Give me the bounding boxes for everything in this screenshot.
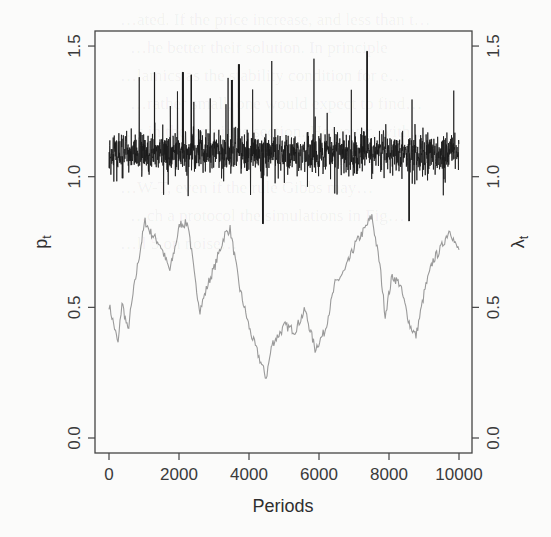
y-tick-label-left: 1.5 xyxy=(65,34,84,58)
x-tick-label: 4000 xyxy=(230,465,268,484)
y-tick-label-left: 0.5 xyxy=(65,296,84,320)
lambda-series-line xyxy=(109,214,459,378)
y-tick-label-right: 1.5 xyxy=(484,34,503,58)
svg-text:λt: λt xyxy=(508,235,531,248)
x-tick-label: 6000 xyxy=(300,465,338,484)
plot-frame xyxy=(95,31,472,453)
y-tick-label-left: 1.0 xyxy=(65,165,84,189)
y-axis-right: 0.00.51.01.5 xyxy=(472,34,503,450)
y-axis-left: 0.00.51.01.5 xyxy=(65,34,95,450)
price-series-line xyxy=(109,51,459,223)
x-tick-label: 8000 xyxy=(370,465,408,484)
y-tick-label-left: 0.0 xyxy=(65,426,84,450)
svg-text:pt: pt xyxy=(31,235,54,249)
x-axis: 0200040006000800010000 xyxy=(104,453,482,484)
y-axis-title-left: pt xyxy=(31,235,54,249)
x-tick-label: 0 xyxy=(104,465,113,484)
x-tick-label: 2000 xyxy=(160,465,198,484)
y-tick-label-right: 1.0 xyxy=(484,165,503,189)
time-series-chart: 0200040006000800010000 0.00.51.01.5 0.00… xyxy=(0,0,551,537)
y-axis-title-right: λt xyxy=(508,235,531,248)
x-tick-label: 10000 xyxy=(435,465,482,484)
y-tick-label-right: 0.0 xyxy=(484,426,503,450)
y-tick-label-right: 0.5 xyxy=(484,296,503,320)
x-axis-title: Periods xyxy=(252,496,313,516)
